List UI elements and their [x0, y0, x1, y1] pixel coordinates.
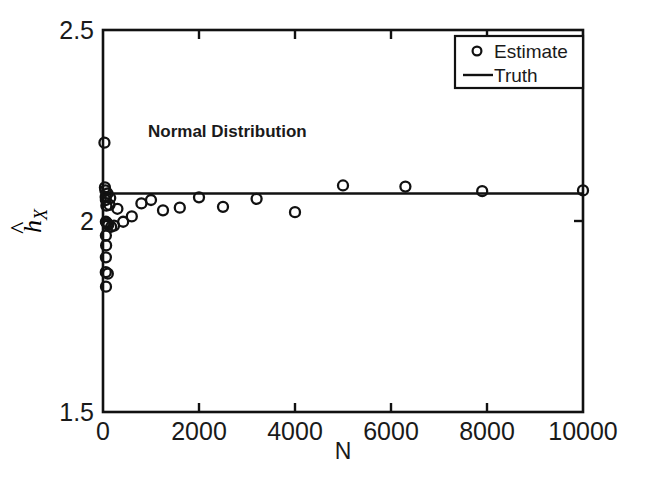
x-tick-label: 4000: [267, 417, 323, 445]
y-tick-label: 1.5: [59, 398, 94, 426]
x-tick-label: 10000: [548, 417, 618, 445]
legend-truth-label: Truth: [494, 65, 538, 86]
x-tick-label: 0: [96, 417, 110, 445]
legend: Estimate Truth: [455, 36, 583, 88]
chart-figure: 0200040006000800010000 1.522.5 Normal Di…: [0, 0, 648, 483]
x-axis-label: N: [335, 438, 352, 464]
x-tick-label: 6000: [363, 417, 419, 445]
y-tick-label: 2.5: [59, 16, 94, 44]
x-tick-label: 2000: [171, 417, 227, 445]
distribution-annotation: Normal Distribution: [148, 122, 307, 141]
legend-estimate-label: Estimate: [494, 41, 568, 62]
y-tick-label: 2: [80, 207, 94, 235]
x-tick-label: 8000: [459, 417, 515, 445]
